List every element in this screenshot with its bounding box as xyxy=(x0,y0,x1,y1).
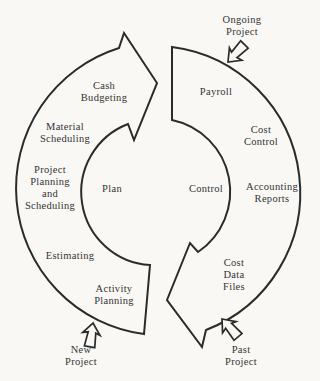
label-accounting-reports: Accounting Reports xyxy=(246,181,298,205)
plan-control-cycle-diagram: Ongoing Project New Project Past Project… xyxy=(0,0,320,381)
label-estimating: Estimating xyxy=(46,250,95,262)
label-new-project: New Project xyxy=(65,344,97,368)
label-cost-data-files: Cost Data Files xyxy=(223,257,245,293)
label-material-scheduling: Material Scheduling xyxy=(40,121,90,145)
label-plan-center: Plan xyxy=(102,183,122,195)
label-past-project: Past Project xyxy=(225,344,257,368)
ongoing-project-arrow-icon xyxy=(222,39,251,68)
label-project-planning-and-scheduling: Project Planning and Scheduling xyxy=(25,164,75,212)
label-ongoing-project: Ongoing Project xyxy=(223,14,262,38)
label-control-center: Control xyxy=(189,183,223,195)
label-cash-budgeting: Cash Budgeting xyxy=(81,80,127,104)
label-cost-control: Cost Control xyxy=(244,124,278,148)
label-payroll: Payroll xyxy=(200,86,232,98)
label-activity-planning: Activity Planning xyxy=(94,283,134,307)
